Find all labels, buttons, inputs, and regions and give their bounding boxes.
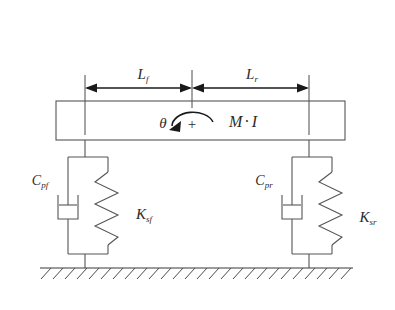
dimension-rear: Lr [192,66,309,93]
front-spring-coil [95,172,118,245]
arrowhead-rear-left [192,84,204,93]
ground [40,268,353,279]
vehicle-body-beam [56,101,345,140]
rear-spring-label: Ksr [358,209,377,227]
dimension-extension-lines [85,70,309,135]
dimension-front: Lf [85,66,192,93]
suspension-diagram-figure: Lf Lr θ + M·I [0,0,395,310]
rear-spring: Ksr [319,157,377,254]
front-spring-label: Ksf [135,206,154,224]
mass-inertia-label: M·I [228,113,258,130]
positive-sign-label: + [188,116,196,132]
rear-damper: Cpr [255,157,302,254]
rear-damper-label: Cpr [255,173,273,190]
front-suspension-assembly: Cpf Ksf [32,140,154,268]
dimension-label-rear: Lr [245,66,258,84]
front-damper: Cpf [32,157,78,254]
front-damper-label: Cpf [32,173,50,190]
dimension-label-front: Lf [137,66,150,84]
rotation-arrowhead [169,121,181,132]
rear-spring-coil [319,172,342,245]
ground-hatching [41,268,351,279]
body-rectangle [56,101,345,140]
arrowhead-rear-right [297,84,309,93]
rotation-indicator: θ + M·I [159,112,257,132]
diagram-canvas: Lf Lr θ + M·I [0,0,395,310]
arrowhead-front-left [85,84,97,93]
rear-suspension-assembly: Cpr Ksr [255,140,377,268]
front-spring: Ksf [95,157,154,254]
arrowhead-front-right [180,84,192,93]
theta-label: θ [159,115,167,131]
